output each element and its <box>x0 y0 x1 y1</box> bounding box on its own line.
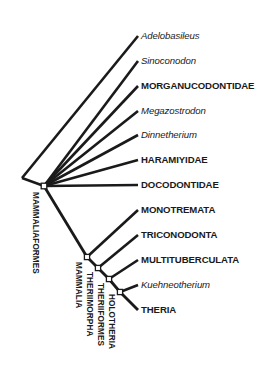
branch-multituberculata <box>109 260 138 279</box>
node-holotheria <box>117 289 122 294</box>
branch-monotremata <box>87 210 138 257</box>
node-root <box>41 183 47 189</box>
branch-docodontidae <box>44 185 138 186</box>
taxon-label-morganucodontidae: MORGANUCODONTIDAE <box>141 81 254 91</box>
clade-label-mammaliaformes: MAMMALIAFORMES <box>31 192 40 274</box>
taxon-label-triconodonta: TRICONODONTA <box>141 230 217 240</box>
clade-label-mammalia: MAMMALIA <box>74 262 83 308</box>
taxon-label-dinnetherium: Dinnetherium <box>141 130 197 140</box>
branch-morganucodontidae <box>44 86 138 186</box>
taxon-label-adelobasileus: Adelobasileus <box>141 31 199 41</box>
branch-haramiyidae <box>44 160 138 186</box>
taxon-label-theria: THERIA <box>141 305 176 315</box>
taxon-label-kuehneotherium: Kuehneotherium <box>141 280 210 290</box>
node-theriiformes <box>106 276 111 281</box>
branch-dinnetherium <box>44 135 138 186</box>
taxon-label-megazostrodon: Megazostrodon <box>141 106 206 116</box>
taxon-label-monotremata: MONOTREMATA <box>141 205 215 215</box>
taxon-label-docodontidae: DOCODONTIDAE <box>141 180 219 190</box>
node-mammalia <box>84 254 89 259</box>
cladogram-figure: Adelobasileus Sinoconodon MORGANUCODONTI… <box>0 0 257 378</box>
node-theriimorpha <box>95 265 100 270</box>
branch-mammalia-trunk <box>44 186 87 257</box>
taxon-label-multituberculata: MULTITUBERCULATA <box>141 255 239 265</box>
clade-label-holotheria: HOLOTHERIA <box>107 294 116 349</box>
taxon-label-sinoconodon: Sinoconodon <box>141 56 196 66</box>
clade-label-theriimorpha: THERIIMORPHA <box>85 272 94 336</box>
taxon-label-haramiyidae: HARAMIYIDAE <box>141 155 208 165</box>
clade-label-theriiformes: THERIIFORMES <box>96 283 105 346</box>
